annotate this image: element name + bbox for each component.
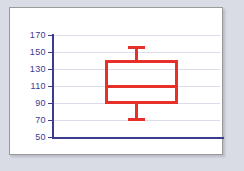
y-tick-label-150: 150 [16,48,46,57]
whisker-upper-cap [128,46,145,49]
y-tick-label-110: 110 [16,82,46,91]
y-tick-130 [48,69,52,70]
y-tick-label-170: 170 [16,31,46,40]
gridline-170 [54,35,220,36]
box-plot-chart: 170 150 130 110 90 70 50 [10,8,222,154]
y-tick-110 [48,86,52,87]
y-tick-150 [48,52,52,53]
y-tick-170 [48,35,52,36]
y-tick-90 [48,103,52,104]
box-iqr [105,60,178,104]
median-line [105,85,178,88]
chart-frame: 170 150 130 110 90 70 50 [9,7,223,155]
y-tick-label-50: 50 [16,133,46,142]
y-tick-70 [48,120,52,121]
x-axis-line [52,137,224,139]
y-axis-line [52,34,54,139]
y-tick-label-130: 130 [16,65,46,74]
y-tick-label-90: 90 [16,99,46,108]
whisker-lower-cap [128,118,145,121]
y-tick-label-70: 70 [16,116,46,125]
y-tick-50 [48,137,52,138]
